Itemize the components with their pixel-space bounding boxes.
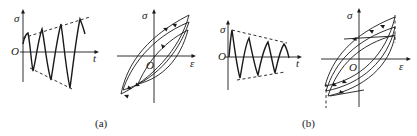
panel-a-time-y-arrow-icon — [21, 9, 25, 14]
panel-b-hysteresis-loop-1 — [325, 17, 395, 86]
panel-b-direction-arrow-icon — [380, 25, 385, 29]
panel-a-time-x-label: t — [93, 53, 96, 64]
figure: σ t O σ ε O (a) σ t O σ ε O (b) — [0, 0, 417, 136]
panel-b-lower-envelope — [237, 72, 285, 80]
panel-b-upper-envelope — [232, 30, 287, 43]
panel-b-loop-y-arrow-icon — [357, 8, 361, 13]
panel-b-loop-origin-label: O — [349, 62, 357, 73]
panel-a-direction-arrow-icon — [124, 95, 129, 99]
panel-b-time-x-label: t — [296, 58, 299, 69]
panel-a-time-origin-label: O — [11, 46, 19, 57]
panel-a-hysteresis-loop-3 — [138, 30, 188, 84]
panel-a-direction-arrow-icon — [172, 24, 177, 28]
panel-b-loop-y-label: σ — [347, 10, 352, 21]
panel-a-loop-x-label: ε — [190, 58, 194, 69]
panel-a-loop-origin-label: O — [146, 60, 154, 71]
panel-a-loop-y-arrow-icon — [152, 9, 156, 14]
panel-b-time-y-arrow-icon — [226, 20, 230, 25]
panel-b-direction-arrow-icon — [369, 30, 374, 34]
panel-b-caption: (b) — [302, 118, 315, 129]
panel-a-loop-y-label: σ — [142, 10, 147, 21]
panel-b-stress-waveform — [229, 30, 289, 78]
panel-a-direction-arrow-icon — [161, 44, 165, 49]
panel-b-time-y-label: σ — [220, 24, 225, 35]
panel-a-caption: (a) — [95, 118, 107, 129]
panel-a-time-y-label: σ — [14, 13, 19, 24]
panel-a-stress-waveform — [23, 19, 85, 88]
panel-b-loop-x-arrow-icon — [407, 57, 412, 61]
panel-b-time-origin-label: O — [218, 51, 226, 62]
panel-b-loop-x-label: ε — [399, 61, 403, 72]
